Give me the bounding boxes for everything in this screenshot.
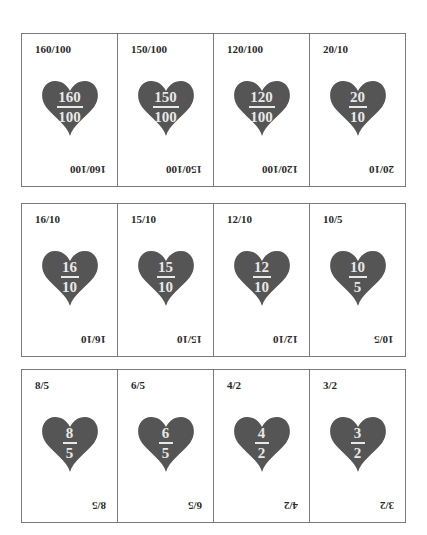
- fraction-bar: [159, 442, 173, 444]
- card-label-top: 8/5: [35, 379, 49, 391]
- card-label-bottom: 20/10: [369, 164, 394, 176]
- card-row: 160/100 160 100 160/100 150/100 150 100: [21, 33, 406, 187]
- fraction: 120 100: [232, 90, 292, 125]
- fraction-numerator: 10: [350, 260, 365, 275]
- card-label-bottom: 6/5: [188, 500, 202, 512]
- card-label-top: 150/100: [131, 43, 167, 55]
- fraction-card: 16/10 16 10 16/10: [22, 204, 117, 356]
- heart-icon: 15 10: [136, 249, 196, 307]
- card-label-top: 15/10: [131, 213, 156, 225]
- fraction-card: 15/10 15 10 15/10: [117, 204, 213, 356]
- fraction-card: 6/5 6 5 6/5: [117, 370, 213, 522]
- fraction-numerator: 4: [258, 426, 266, 441]
- fraction: 4 2: [232, 426, 292, 461]
- fraction-bar: [351, 442, 365, 444]
- fraction: 12 10: [232, 260, 292, 295]
- fraction-bar: [61, 276, 79, 278]
- fraction-denominator: 10: [158, 280, 173, 295]
- card-label-bottom: 160/100: [70, 164, 106, 176]
- fraction-bar: [349, 276, 367, 278]
- fraction-bar: [249, 106, 275, 108]
- fraction-denominator: 5: [66, 446, 74, 461]
- fraction-card: 160/100 160 100 160/100: [22, 34, 117, 186]
- heart-icon: 20 10: [328, 79, 388, 137]
- card-label-top: 12/10: [227, 213, 252, 225]
- card-label-top: 4/2: [227, 379, 241, 391]
- heart-icon: 4 2: [232, 415, 292, 473]
- fraction-card: 3/2 3 2 3/2: [309, 370, 405, 522]
- heart-icon: 6 5: [136, 415, 196, 473]
- fraction-numerator: 160: [58, 90, 81, 105]
- fraction-card: 8/5 8 5 8/5: [22, 370, 117, 522]
- fraction-bar: [57, 106, 83, 108]
- fraction: 16 10: [40, 260, 100, 295]
- fraction-bar: [255, 442, 269, 444]
- card-label-top: 160/100: [35, 43, 71, 55]
- card-label-bottom: 16/10: [81, 334, 106, 346]
- fraction-numerator: 120: [250, 90, 273, 105]
- heart-icon: 120 100: [232, 79, 292, 137]
- heart-icon: 8 5: [40, 415, 100, 473]
- fraction-numerator: 15: [158, 260, 173, 275]
- fraction-numerator: 150: [154, 90, 177, 105]
- fraction-numerator: 12: [254, 260, 269, 275]
- fraction-denominator: 10: [62, 280, 77, 295]
- card-row: 8/5 8 5 8/5 6/5 6 5 6/5: [21, 369, 406, 523]
- heart-icon: 160 100: [40, 79, 100, 137]
- fraction-card-sheet: 160/100 160 100 160/100 150/100 150 100: [0, 0, 427, 535]
- card-label-bottom: 4/2: [284, 500, 298, 512]
- heart-icon: 10 5: [328, 249, 388, 307]
- fraction-card: 120/100 120 100 120/100: [213, 34, 309, 186]
- fraction-bar: [153, 106, 179, 108]
- card-label-top: 10/5: [323, 213, 343, 225]
- fraction-card: 4/2 4 2 4/2: [213, 370, 309, 522]
- card-label-bottom: 120/100: [262, 164, 298, 176]
- fraction: 10 5: [328, 260, 388, 295]
- fraction: 160 100: [40, 90, 100, 125]
- fraction-denominator: 100: [58, 110, 81, 125]
- fraction-denominator: 100: [250, 110, 273, 125]
- heart-icon: 3 2: [328, 415, 388, 473]
- fraction-denominator: 5: [354, 280, 362, 295]
- card-label-bottom: 12/10: [273, 334, 298, 346]
- fraction-card: 20/10 20 10 20/10: [309, 34, 405, 186]
- heart-icon: 12 10: [232, 249, 292, 307]
- card-label-bottom: 150/100: [166, 164, 202, 176]
- fraction-denominator: 5: [162, 446, 170, 461]
- fraction-bar: [253, 276, 271, 278]
- card-label-top: 20/10: [323, 43, 348, 55]
- fraction-bar: [63, 442, 77, 444]
- fraction-denominator: 2: [258, 446, 266, 461]
- fraction-denominator: 10: [254, 280, 269, 295]
- heart-icon: 16 10: [40, 249, 100, 307]
- card-label-top: 16/10: [35, 213, 60, 225]
- fraction-denominator: 100: [154, 110, 177, 125]
- fraction-card: 150/100 150 100 150/100: [117, 34, 213, 186]
- fraction: 20 10: [328, 90, 388, 125]
- fraction: 6 5: [136, 426, 196, 461]
- heart-icon: 150 100: [136, 79, 196, 137]
- fraction: 3 2: [328, 426, 388, 461]
- card-label-top: 6/5: [131, 379, 145, 391]
- fraction-denominator: 10: [350, 110, 365, 125]
- fraction-numerator: 6: [162, 426, 170, 441]
- card-label-bottom: 10/5: [374, 334, 394, 346]
- fraction-numerator: 8: [66, 426, 74, 441]
- card-label-bottom: 15/10: [177, 334, 202, 346]
- card-row: 16/10 16 10 16/10 15/10 15 10: [21, 203, 406, 357]
- fraction: 15 10: [136, 260, 196, 295]
- fraction-numerator: 16: [62, 260, 77, 275]
- fraction-bar: [349, 106, 367, 108]
- fraction: 150 100: [136, 90, 196, 125]
- card-label-bottom: 8/5: [92, 500, 106, 512]
- card-label-top: 3/2: [323, 379, 337, 391]
- fraction-numerator: 20: [350, 90, 365, 105]
- fraction-bar: [157, 276, 175, 278]
- card-label-top: 120/100: [227, 43, 263, 55]
- fraction-denominator: 2: [354, 446, 362, 461]
- fraction-numerator: 3: [354, 426, 362, 441]
- fraction-card: 12/10 12 10 12/10: [213, 204, 309, 356]
- card-label-bottom: 3/2: [380, 500, 394, 512]
- fraction: 8 5: [40, 426, 100, 461]
- fraction-card: 10/5 10 5 10/5: [309, 204, 405, 356]
